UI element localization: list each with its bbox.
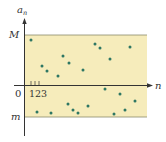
sequence-point [82, 69, 85, 72]
sequence-point [94, 43, 97, 46]
sequence-point [46, 70, 49, 73]
y-axis-arrow-icon [22, 18, 26, 24]
sequence-point [62, 55, 65, 58]
x-axis-label: n [155, 80, 161, 91]
upper-bound-label: M [8, 29, 20, 40]
sequence-point [77, 112, 80, 115]
sequence-point [41, 65, 44, 68]
origin-label: 0 [15, 88, 21, 99]
sequence-point [129, 46, 132, 49]
sequence-point [50, 112, 53, 115]
sequence-point [36, 111, 39, 114]
sequence-point [67, 103, 70, 106]
sequence-point [134, 100, 137, 103]
lower-bound-label: m [11, 111, 20, 122]
sequence-point [113, 113, 116, 116]
sequence-point [57, 75, 60, 78]
sequence-point [72, 109, 75, 112]
sequence-point [109, 58, 112, 61]
sequence-point [30, 39, 33, 42]
y-axis-label: an [17, 4, 27, 17]
sequence-point [124, 109, 127, 112]
sequence-point [99, 47, 102, 50]
x-axis-arrow-icon [147, 83, 153, 87]
sequence-point [68, 62, 71, 65]
tick-labels: 123 [29, 88, 47, 99]
sequence-point [87, 105, 90, 108]
sequence-point [119, 93, 122, 96]
bounded-sequence-diagram: an n M m 0 123 [0, 0, 166, 142]
sequence-point [104, 88, 107, 91]
